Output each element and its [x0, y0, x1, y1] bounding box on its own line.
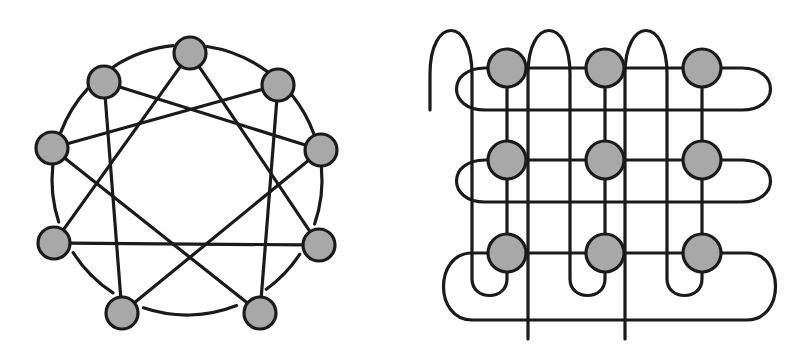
- graph-node[interactable]: [305, 134, 337, 166]
- torus-mesh-svg: [402, 0, 804, 355]
- graph-node[interactable]: [244, 297, 276, 329]
- ring-edge: [292, 95, 314, 134]
- mesh-node[interactable]: [586, 49, 624, 87]
- ring-edge: [113, 46, 173, 67]
- column-wrap-group: [430, 31, 702, 340]
- ring-edge: [315, 167, 322, 224]
- node-group: [36, 37, 337, 329]
- ring-edge: [207, 47, 267, 72]
- mesh-node[interactable]: [683, 49, 721, 87]
- chord-edge: [62, 64, 182, 231]
- mesh-node[interactable]: [683, 141, 721, 179]
- graph-node[interactable]: [36, 132, 68, 164]
- graph-node[interactable]: [303, 229, 335, 261]
- figure-right-torus-mesh: [402, 0, 804, 355]
- mesh-node[interactable]: [488, 141, 526, 179]
- ring-edge: [61, 89, 88, 133]
- ring-edge: [143, 306, 236, 315]
- mesh-node[interactable]: [586, 234, 624, 272]
- mesh-node[interactable]: [488, 234, 526, 272]
- mesh-node[interactable]: [683, 234, 721, 272]
- ring-edge: [266, 254, 299, 289]
- graph-node[interactable]: [88, 66, 120, 98]
- graph-node[interactable]: [106, 297, 138, 329]
- chord-edge: [105, 96, 121, 299]
- graph-node[interactable]: [262, 69, 294, 101]
- mesh-node[interactable]: [586, 141, 624, 179]
- graph-node[interactable]: [38, 227, 70, 259]
- figure-left-circulant-graph: [0, 0, 402, 355]
- ring-edge: [52, 166, 59, 222]
- chord-edge: [68, 243, 305, 245]
- mesh-node[interactable]: [488, 49, 526, 87]
- row-wrap-group: [444, 68, 776, 320]
- figure-panel: [0, 0, 804, 355]
- graph-node[interactable]: [174, 37, 206, 69]
- node-group: [488, 49, 721, 272]
- circulant-graph-svg: [0, 0, 402, 355]
- ring-edge: [73, 253, 113, 293]
